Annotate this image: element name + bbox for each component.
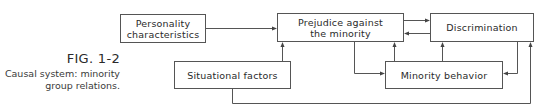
node-situational-factors: Situational factors xyxy=(174,61,291,89)
node-minority-behavior: Minority behavior xyxy=(385,61,503,89)
node-prejudice-against-minority: Prejudice against the minority xyxy=(277,13,404,42)
node-label-line-2: characteristics xyxy=(127,29,200,40)
edge-personality-to-prejudice xyxy=(206,27,277,31)
node-label: Minority behavior xyxy=(401,70,488,81)
node-label-line-2: the minority xyxy=(298,28,383,39)
edge-prejudice-to-minority-behavior xyxy=(355,42,386,76)
node-label: Discrimination xyxy=(446,22,517,33)
edge-minority-behavior-to-prejudice xyxy=(393,42,397,61)
edge-discrimination-to-prejudice xyxy=(404,32,430,36)
edge-situational-to-prejudice xyxy=(281,42,285,61)
edge-discrimination-to-minority-behavior xyxy=(503,42,518,76)
edge-minority-behavior-to-discrimination xyxy=(441,42,445,61)
node-label-line-1: Prejudice against xyxy=(298,17,383,28)
node-label-line-1: Personality xyxy=(127,18,200,29)
node-label: Situational factors xyxy=(187,70,278,81)
node-personality-characteristics: Personality characteristics xyxy=(120,14,206,43)
node-discrimination: Discrimination xyxy=(430,13,534,42)
edge-prejudice-to-discrimination xyxy=(404,19,430,23)
